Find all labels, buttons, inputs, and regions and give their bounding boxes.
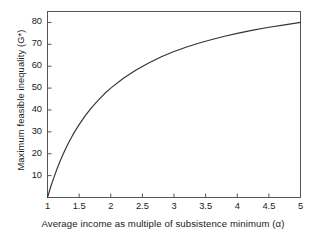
figure: Maximum feasible inequality (G*) 1020304… <box>0 0 313 241</box>
plot-frame <box>48 12 301 198</box>
y-tick-label-30: 30 <box>18 127 42 137</box>
y-tick-label-text: 10 <box>20 171 42 180</box>
y-tick-label-70: 70 <box>18 39 42 49</box>
x-tick-label-5: 5 <box>286 201 314 213</box>
x-tick-label-text: 3.5 <box>191 201 221 212</box>
x-tick-label-text: 1 <box>33 201 63 212</box>
y-tick-label-60: 60 <box>18 61 42 71</box>
x-tick-label-text: 5 <box>286 201 314 212</box>
x-tick-label-4.5: 4.5 <box>254 201 284 213</box>
x-tick-label-text: 4 <box>222 201 252 212</box>
y-tick-label-text: 20 <box>20 149 42 158</box>
y-tick-label-20: 20 <box>18 149 42 159</box>
y-axis-ticks <box>48 22 52 175</box>
x-tick-label-1: 1 <box>33 201 63 213</box>
y-tick-label-80: 80 <box>18 17 42 27</box>
y-tick-label-50: 50 <box>18 83 42 93</box>
y-tick-label-text: 70 <box>20 39 42 48</box>
x-tick-label-1.5: 1.5 <box>64 201 94 213</box>
y-tick-label-40: 40 <box>18 105 42 115</box>
x-axis-ticks <box>48 194 301 198</box>
y-tick-label-text: 60 <box>20 61 42 70</box>
x-tick-label-3: 3 <box>159 201 189 213</box>
x-tick-label-text: 4.5 <box>254 201 284 212</box>
x-tick-label-text: 1.5 <box>64 201 94 212</box>
x-tick-label-3.5: 3.5 <box>191 201 221 213</box>
data-curve <box>48 22 301 197</box>
x-tick-label-text: 2.5 <box>127 201 157 212</box>
y-tick-label-10: 10 <box>18 171 42 181</box>
y-tick-label-text: 40 <box>20 105 42 114</box>
y-tick-label-text: 50 <box>20 83 42 92</box>
x-tick-label-text: 3 <box>159 201 189 212</box>
x-tick-label-4: 4 <box>222 201 252 213</box>
x-axis-title: Average income as multiple of subsistenc… <box>18 218 308 229</box>
y-tick-label-text: 80 <box>20 17 42 26</box>
x-tick-label-2.5: 2.5 <box>127 201 157 213</box>
x-tick-label-text: 2 <box>96 201 126 212</box>
x-tick-label-2: 2 <box>96 201 126 213</box>
y-tick-label-text: 30 <box>20 127 42 136</box>
